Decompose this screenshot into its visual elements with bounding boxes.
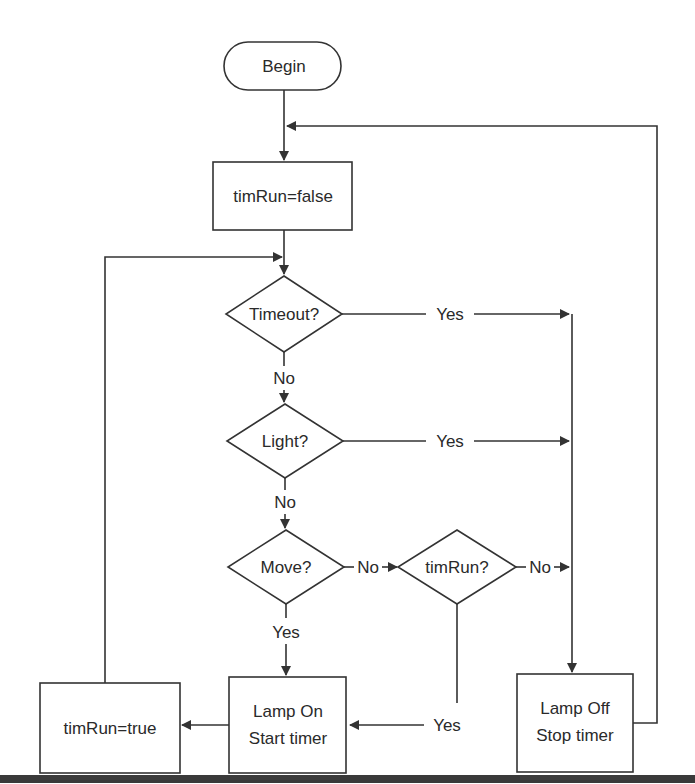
flowchart: Begin timRun=false Timeout? Yes No Light… (0, 0, 695, 784)
timeout-label: Timeout? (249, 305, 319, 324)
move-label: Move? (260, 558, 311, 577)
lamp-off-line2: Stop timer (536, 726, 614, 745)
timrun-no-label: No (529, 558, 551, 577)
timeout-yes-label: Yes (436, 305, 464, 324)
lamp-on-line1: Lamp On (253, 702, 323, 721)
set-true-label: timRun=true (63, 719, 156, 738)
light-yes-label: Yes (436, 432, 464, 451)
bottom-rule (0, 775, 695, 783)
begin-label: Begin (262, 57, 305, 76)
lamp-on-box (229, 677, 346, 773)
move-yes-label: Yes (272, 623, 300, 642)
lamp-off-line1: Lamp Off (540, 699, 610, 718)
lamp-on-line2: Start timer (249, 729, 328, 748)
init-label: timRun=false (233, 187, 333, 206)
timrun-yes-label: Yes (433, 716, 461, 735)
move-no-label: No (357, 558, 379, 577)
lamp-off-box (517, 674, 633, 772)
light-no-label: No (274, 493, 296, 512)
timeout-no-label: No (273, 369, 295, 388)
timrun-label: timRun? (425, 558, 488, 577)
light-label: Light? (262, 432, 308, 451)
